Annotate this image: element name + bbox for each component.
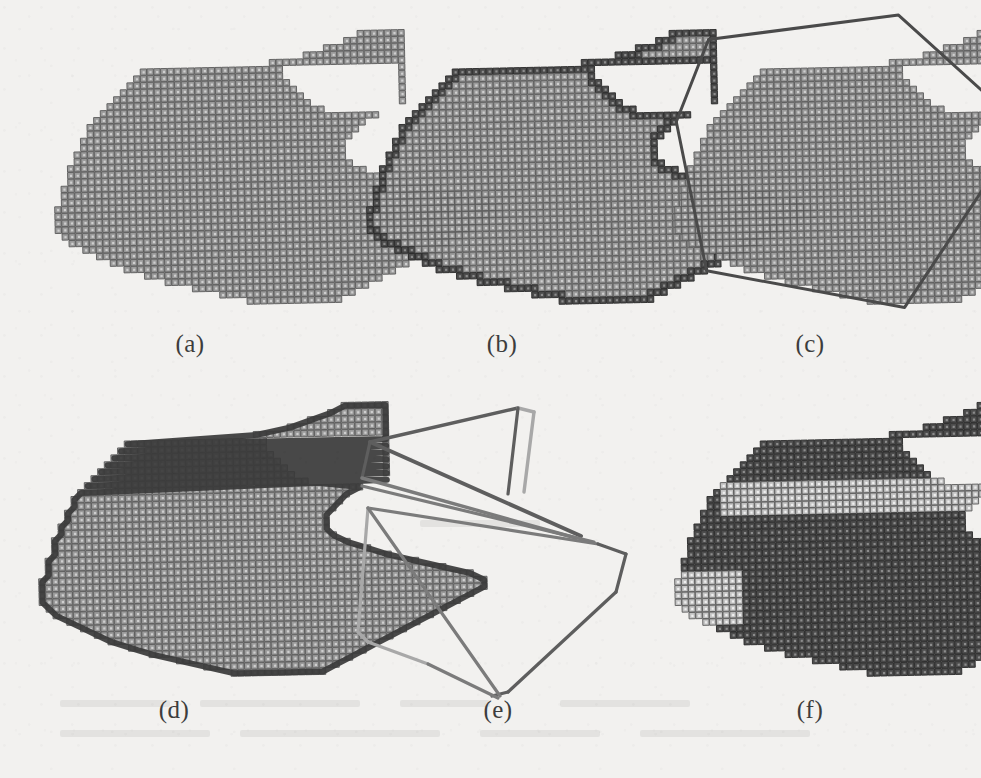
figure-panel-grid: (a) (b) (c) (d) (e) (f) [0,0,981,778]
panel-c: (c) [660,24,960,354]
panel-c-label: (c) [660,330,960,358]
panel-c-canvas [660,24,970,324]
panel-d-canvas [24,396,324,696]
panel-f-canvas [660,396,960,696]
panel-f: (f) [660,396,960,726]
panel-f-label: (f) [660,696,960,724]
panel-a-canvas [40,24,340,324]
panel-b-label: (b) [352,330,652,358]
panel-e-canvas [348,396,648,696]
panel-a: (a) [40,24,340,354]
panel-a-label: (a) [40,330,340,358]
panel-e: (e) [348,396,648,726]
panel-e-label: (e) [348,696,648,724]
panel-d: (d) [24,396,324,726]
panel-b-canvas [352,24,652,324]
panel-b: (b) [352,24,652,354]
panel-d-label: (d) [24,696,324,724]
